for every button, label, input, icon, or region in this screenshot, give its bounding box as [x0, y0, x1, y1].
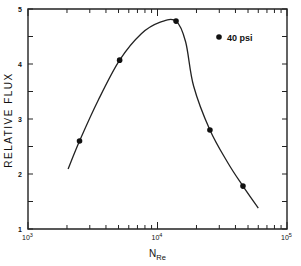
y-tick-label: 2 — [18, 171, 22, 178]
x-axis-label: NRe — [149, 248, 166, 262]
x-tick-label: 105 — [281, 232, 292, 241]
legend-marker-icon — [216, 34, 222, 40]
chart: 40 psi 12345103104105NReRELATIVE FLUX — [0, 0, 301, 266]
x-tick-exponent: 3 — [30, 232, 33, 238]
data-point — [173, 18, 179, 24]
data-point — [77, 138, 83, 144]
legend: 40 psi — [216, 33, 252, 43]
y-tick-label: 5 — [18, 6, 22, 13]
y-axis-label: RELATIVE FLUX — [3, 72, 14, 167]
axis-labels: 12345103104105NReRELATIVE FLUX — [3, 6, 292, 262]
x-axis-label-subscript: Re — [156, 253, 166, 262]
data-points — [77, 18, 246, 189]
x-tick-label: 104 — [152, 232, 163, 241]
fitted-curve — [68, 19, 258, 208]
data-point — [207, 127, 213, 133]
legend-label: 40 psi — [227, 33, 253, 43]
curve-40-psi — [68, 19, 258, 208]
data-point — [240, 183, 246, 189]
x-tick-exponent: 4 — [159, 232, 162, 238]
y-tick-label: 1 — [18, 226, 22, 233]
x-tick-label: 103 — [22, 232, 33, 241]
y-tick-label: 3 — [18, 116, 22, 123]
data-point — [117, 57, 123, 63]
x-tick-exponent: 5 — [289, 232, 292, 238]
y-tick-label: 4 — [18, 61, 22, 68]
